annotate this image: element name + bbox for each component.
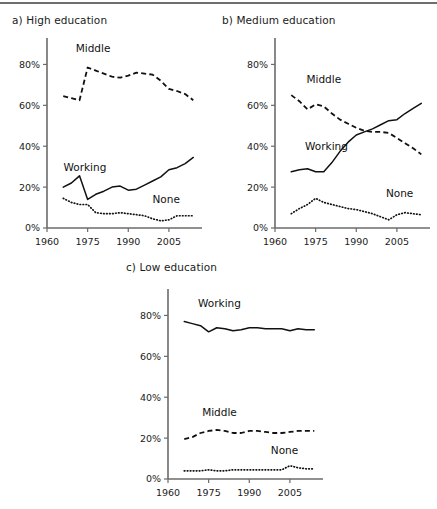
panel-title-a: a) High education xyxy=(12,14,107,27)
figure-root: a) High education 0%20%40%60%80%19601975… xyxy=(0,0,437,509)
panel-high-education: a) High education 0%20%40%60%80%19601975… xyxy=(0,10,210,255)
plot-area-c: 0%20%40%60%80%1960197519902005WorkingMid… xyxy=(110,277,340,507)
y-tick-label: 80% xyxy=(140,310,161,321)
series-label-none: None xyxy=(271,444,298,456)
panel-title-b: b) Medium education xyxy=(222,14,335,27)
series-line-middle xyxy=(63,68,193,101)
y-tick-label: 0% xyxy=(25,222,40,233)
x-tick-label: 1975 xyxy=(304,236,328,247)
series-label-middle: Middle xyxy=(306,73,341,85)
x-tick-label: 1960 xyxy=(156,487,180,498)
header-divider xyxy=(0,2,437,4)
series-line-none xyxy=(184,466,314,471)
y-tick-label: 40% xyxy=(19,141,40,152)
panel-medium-education: b) Medium education 0%20%40%60%80%196019… xyxy=(215,10,437,255)
chart-svg-b: 0%20%40%60%80%1960197519902005MiddleWork… xyxy=(215,30,437,255)
panel-title-c: c) Low education xyxy=(126,261,217,274)
x-tick-label: 2005 xyxy=(278,487,302,498)
y-tick-label: 0% xyxy=(253,222,268,233)
y-tick-label: 80% xyxy=(19,59,40,70)
series-label-middle: Middle xyxy=(202,406,237,418)
plot-area-a: 0%20%40%60%80%1960197519902005MiddleWork… xyxy=(0,30,210,255)
y-tick-label: 60% xyxy=(140,351,161,362)
series-line-middle xyxy=(184,430,314,439)
y-tick-label: 60% xyxy=(247,100,268,111)
y-tick-label: 80% xyxy=(247,59,268,70)
y-tick-label: 20% xyxy=(247,182,268,193)
series-label-none: None xyxy=(386,187,413,199)
x-tick-label: 1990 xyxy=(344,236,368,247)
series-line-none xyxy=(291,198,421,219)
y-tick-label: 20% xyxy=(140,433,161,444)
x-tick-label: 1990 xyxy=(116,236,140,247)
y-tick-label: 60% xyxy=(19,100,40,111)
panel-low-education: c) Low education 0%20%40%60%80%196019751… xyxy=(110,258,340,509)
y-tick-label: 20% xyxy=(19,182,40,193)
chart-svg-a: 0%20%40%60%80%1960197519902005MiddleWork… xyxy=(0,30,210,255)
y-tick-label: 40% xyxy=(247,141,268,152)
series-line-working xyxy=(184,322,314,332)
x-tick-label: 1975 xyxy=(197,487,221,498)
y-tick-label: 0% xyxy=(146,473,161,484)
x-tick-label: 1990 xyxy=(237,487,261,498)
series-label-working: Working xyxy=(305,140,348,152)
x-tick-label: 1960 xyxy=(263,236,287,247)
x-tick-label: 2005 xyxy=(385,236,409,247)
x-tick-label: 1975 xyxy=(76,236,100,247)
series-label-none: None xyxy=(152,193,179,205)
chart-svg-c: 0%20%40%60%80%1960197519902005WorkingMid… xyxy=(110,277,340,507)
series-label-middle: Middle xyxy=(76,42,111,54)
x-tick-label: 2005 xyxy=(157,236,181,247)
y-tick-label: 40% xyxy=(140,392,161,403)
x-tick-label: 1960 xyxy=(35,236,59,247)
plot-area-b: 0%20%40%60%80%1960197519902005MiddleWork… xyxy=(215,30,437,255)
series-line-working xyxy=(291,103,421,171)
series-label-working: Working xyxy=(198,297,241,309)
series-label-working: Working xyxy=(64,161,107,173)
